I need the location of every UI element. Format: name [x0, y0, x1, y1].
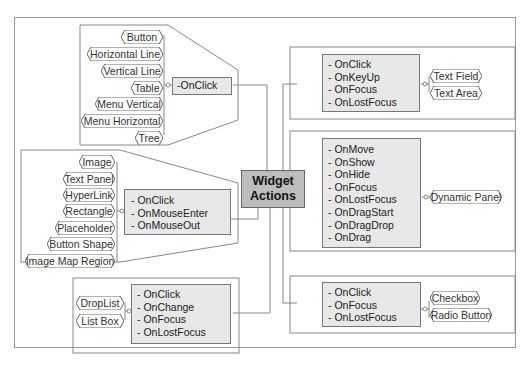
- widget-tag-text-field: Text Field: [430, 69, 482, 83]
- event-ondrag: - OnDrag: [328, 231, 415, 244]
- event-onchange: - OnChange: [137, 301, 225, 314]
- widget-tag-horizontal-line: Horizontal Line: [87, 47, 163, 61]
- event-onclick: -OnClick: [177, 79, 227, 92]
- event-box-text: - OnClick - OnKeyUp - OnFocus - OnLostFo…: [322, 54, 420, 112]
- widget-tag-button-shape: Button Shape: [47, 237, 115, 251]
- event-onclick: - OnClick: [328, 286, 415, 299]
- event-box-panel: - OnMove - OnShow - OnHide - OnFocus - O…: [322, 138, 421, 248]
- center-title-line1: Widget: [242, 174, 304, 189]
- widget-tag-checkbox: Checkbox: [430, 291, 480, 305]
- event-onfocus: - OnFocus: [328, 83, 414, 96]
- widget-tag-hyperlink: HyperLink: [63, 188, 115, 202]
- widget-tag-droplist: DropList: [76, 296, 124, 310]
- event-onclick: - OnClick: [328, 58, 414, 71]
- widget-tag-rectangle: Rectangle: [63, 204, 115, 218]
- event-onmove: - OnMove: [328, 143, 415, 156]
- event-onshow: - OnShow: [328, 156, 415, 169]
- widget-actions-node: Widget Actions: [241, 170, 305, 208]
- widget-tag-button: Button: [121, 30, 163, 44]
- event-box-shapes: - OnClick - OnMouseEnter - OnMouseOut: [124, 189, 231, 235]
- widget-tag-tree: Tree: [135, 131, 163, 145]
- event-onmouseout: - OnMouseOut: [131, 219, 224, 232]
- widget-tag-dynamic-panel: Dynamic Panel: [430, 190, 502, 204]
- widget-tag-radio-button: Radio Button: [430, 308, 492, 322]
- widget-tag-placeholder: Placeholder: [55, 221, 115, 235]
- event-ondragstart: - OnDragStart: [328, 206, 415, 219]
- event-onclick: - OnClick: [131, 194, 224, 207]
- widget-tag-text-panel: Text Panel: [63, 172, 115, 186]
- widget-tag-menu-vertical: Menu Vertical: [95, 97, 163, 111]
- widget-tag-image-map-region: Image Map Region: [25, 254, 115, 268]
- event-onlostfocus: - OnLostFocus: [137, 326, 225, 339]
- event-onlostfocus: - OnLostFocus: [328, 96, 414, 109]
- event-ondragdrop: - OnDragDrop: [328, 219, 415, 232]
- event-onclick: - OnClick: [137, 288, 225, 301]
- event-onlostfocus: - OnLostFocus: [328, 311, 415, 324]
- event-onfocus: - OnFocus: [328, 299, 415, 312]
- event-box-basic: -OnClick: [172, 77, 232, 95]
- event-onfocus: - OnFocus: [328, 181, 415, 194]
- event-box-toggles: - OnClick - OnFocus - OnLostFocus: [322, 282, 421, 327]
- widget-tag-menu-horizontal: Menu Horizontal: [81, 114, 163, 128]
- event-onhide: - OnHide: [328, 168, 415, 181]
- widget-tag-vertical-line: Vertical Line: [101, 64, 163, 78]
- center-title-line2: Actions: [242, 189, 304, 204]
- event-onlostfocus: - OnLostFocus: [328, 193, 415, 206]
- widget-tag-list-box: List Box: [76, 314, 124, 328]
- widget-tag-image: Image: [79, 155, 115, 169]
- event-box-lists: - OnClick - OnChange - OnFocus - OnLostF…: [131, 284, 231, 344]
- event-onmouseenter: - OnMouseEnter: [131, 207, 224, 220]
- event-onfocus: - OnFocus: [137, 313, 225, 326]
- widget-tag-text-area: Text Area: [430, 86, 482, 100]
- widget-tag-table: Table: [131, 81, 163, 95]
- event-onkeyup: - OnKeyUp: [328, 71, 414, 84]
